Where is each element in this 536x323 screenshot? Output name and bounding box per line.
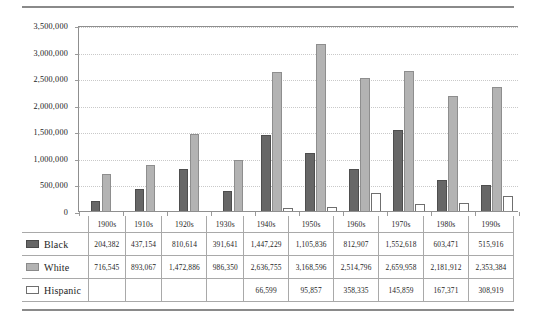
legend-row-white: White	[22, 256, 89, 279]
table-row: White716,545893,0671,472,886986,3502,636…	[22, 256, 514, 279]
cell-black-1960s: 812,907	[334, 233, 379, 256]
bar-black-1920s	[179, 169, 189, 212]
column-header-1900s: 1900s	[89, 216, 126, 233]
cell-white-1990s: 2,353,384	[469, 256, 514, 279]
y-axis: 0500,0001,000,0001,500,0002,000,0002,500…	[0, 18, 72, 208]
y-tick-label: 500,000	[40, 181, 68, 190]
hispanic-swatch-icon	[26, 286, 39, 294]
cell-black-1900s: 204,382	[89, 233, 126, 256]
cell-black-1970s: 1,552,618	[379, 233, 424, 256]
cell-white-1930s: 986,350	[207, 256, 244, 279]
cell-black-1910s: 437,154	[125, 233, 162, 256]
chart-page: 0500,0001,000,0001,500,0002,000,0002,500…	[0, 0, 536, 323]
bar-white-1970s	[404, 71, 414, 212]
column-header-1960s: 1960s	[334, 216, 379, 233]
cell-black-1930s: 391,641	[207, 233, 244, 256]
cell-white-1970s: 2,659,958	[379, 256, 424, 279]
cell-hispanic-1930s	[207, 279, 244, 302]
bar-hispanic-1990s	[503, 196, 513, 212]
bar-black-1950s	[305, 153, 315, 212]
plot-area	[78, 26, 518, 212]
data-table: 1900s1910s1920s1930s1940s1950s1960s1970s…	[22, 216, 514, 302]
plot-inner	[79, 27, 518, 212]
column-header-1910s: 1910s	[125, 216, 162, 233]
y-tick-label: 1,500,000	[33, 128, 68, 137]
cell-white-1940s: 2,636,755	[244, 256, 289, 279]
bar-group-1930s	[211, 27, 255, 212]
cell-hispanic-1910s	[125, 279, 162, 302]
bar-black-1970s	[393, 130, 403, 213]
bar-black-1980s	[437, 180, 447, 212]
top-rule	[22, 6, 514, 8]
bar-black-1940s	[261, 135, 271, 212]
bottom-rule	[22, 309, 514, 311]
bar-group-1950s	[299, 27, 343, 212]
y-tick-label: 1,000,000	[33, 154, 68, 163]
y-tick-label: 3,500,000	[33, 22, 68, 31]
table-row: Hispanic66,59995,857358,335145,859167,37…	[22, 279, 514, 302]
cell-black-1950s: 1,105,836	[289, 233, 334, 256]
bar-white-1910s	[146, 165, 156, 212]
cell-black-1920s: 810,614	[162, 233, 207, 256]
bar-group-1940s	[255, 27, 299, 212]
legend-label: Hispanic	[44, 285, 81, 296]
y-tick-label: 3,000,000	[33, 48, 68, 57]
bar-group-1920s	[167, 27, 211, 212]
bar-white-1930s	[234, 160, 244, 212]
bar-black-1960s	[349, 169, 359, 212]
bar-black-1910s	[135, 189, 145, 212]
black-swatch-icon	[26, 240, 39, 248]
bar-white-1920s	[190, 134, 200, 212]
bar-group-1910s	[123, 27, 167, 212]
bar-group-1960s	[343, 27, 387, 212]
bar-white-1960s	[360, 78, 370, 212]
bar-chart: 0500,0001,000,0001,500,0002,000,0002,500…	[0, 18, 536, 218]
bar-white-1900s	[102, 174, 112, 212]
legend-label: Black	[44, 239, 68, 250]
column-header-1970s: 1970s	[379, 216, 424, 233]
cell-hispanic-1900s	[89, 279, 126, 302]
table-header-row: 1900s1910s1920s1930s1940s1950s1960s1970s…	[22, 216, 514, 233]
bar-white-1940s	[272, 72, 282, 212]
y-tick-label: 2,500,000	[33, 75, 68, 84]
cell-hispanic-1980s: 167,371	[424, 279, 469, 302]
legend-row-black: Black	[22, 233, 89, 256]
bar-hispanic-1960s	[371, 193, 381, 212]
bar-white-1950s	[316, 44, 326, 212]
legend-row-hispanic: Hispanic	[22, 279, 89, 302]
bar-white-1990s	[492, 87, 502, 212]
column-header-1920s: 1920s	[162, 216, 207, 233]
table-corner-cell	[22, 216, 89, 233]
bar-group-1970s	[387, 27, 431, 212]
cell-white-1900s: 716,545	[89, 256, 126, 279]
bar-group-1990s	[475, 27, 519, 212]
column-header-1990s: 1990s	[469, 216, 514, 233]
bar-black-1990s	[481, 185, 491, 212]
cell-white-1920s: 1,472,886	[162, 256, 207, 279]
cell-white-1910s: 893,067	[125, 256, 162, 279]
bar-group-1900s	[79, 27, 123, 212]
cell-hispanic-1940s: 66,599	[244, 279, 289, 302]
cell-hispanic-1950s: 95,857	[289, 279, 334, 302]
table-row: Black204,382437,154810,614391,6411,447,2…	[22, 233, 514, 256]
column-header-1940s: 1940s	[244, 216, 289, 233]
cell-black-1940s: 1,447,229	[244, 233, 289, 256]
cell-black-1990s: 515,916	[469, 233, 514, 256]
column-header-1930s: 1930s	[207, 216, 244, 233]
column-header-1950s: 1950s	[289, 216, 334, 233]
bar-black-1930s	[223, 191, 233, 212]
cell-hispanic-1990s: 308,919	[469, 279, 514, 302]
x-tick	[519, 212, 520, 216]
x-axis-line	[79, 211, 518, 212]
bar-white-1980s	[448, 96, 458, 212]
cell-white-1960s: 2,514,796	[334, 256, 379, 279]
cell-hispanic-1970s: 145,859	[379, 279, 424, 302]
bar-group-1980s	[431, 27, 475, 212]
column-header-1980s: 1980s	[424, 216, 469, 233]
cell-hispanic-1920s	[162, 279, 207, 302]
y-tick-label: 2,000,000	[33, 101, 68, 110]
cell-white-1950s: 3,168,596	[289, 256, 334, 279]
cell-black-1980s: 603,471	[424, 233, 469, 256]
cell-white-1980s: 2,181,912	[424, 256, 469, 279]
white-swatch-icon	[26, 263, 39, 271]
